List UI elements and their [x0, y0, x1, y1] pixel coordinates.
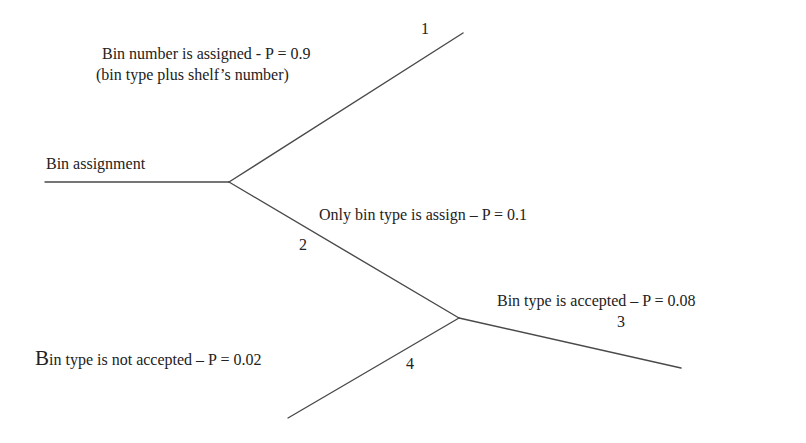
branch-2-line [229, 182, 459, 318]
branch-4-line [288, 318, 459, 418]
branch-4-number: 4 [406, 355, 414, 373]
root-label: Bin assignment [46, 154, 145, 173]
branch-3-number: 3 [617, 313, 625, 331]
branch-3-line [459, 318, 681, 368]
branch-4-label: Bin type is not accepted – P = 0.02 [35, 349, 261, 369]
branch-1-label-line2: (bin type plus shelf’s number) [96, 65, 289, 84]
branch-1-label-line1: Bin number is assigned - P = 0.9 [102, 44, 310, 63]
branch-2-label: Only bin type is assign – P = 0.1 [319, 205, 527, 224]
branch-2-number: 2 [299, 236, 307, 254]
branch-1-number: 1 [421, 20, 429, 38]
branch-3-label: Bin type is accepted – P = 0.08 [497, 291, 696, 310]
